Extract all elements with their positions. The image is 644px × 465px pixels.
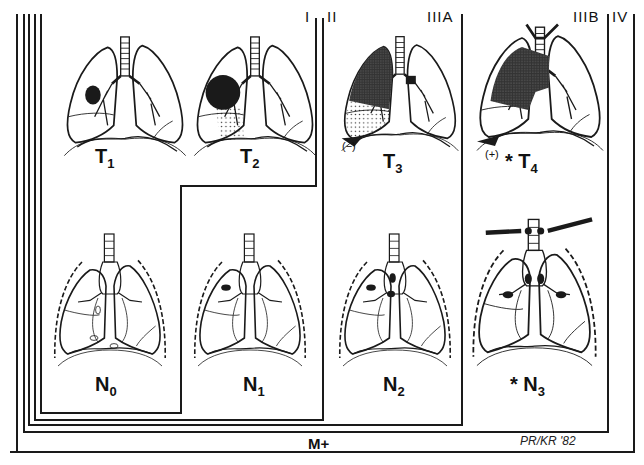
metastasis-label: M+ (308, 435, 329, 452)
panel-label-t4: * T4 (505, 150, 538, 176)
stage-label-iiia: IIIA (427, 8, 454, 25)
asterisk-marker: * (505, 150, 513, 172)
lung-diagram-t1 (50, 30, 200, 160)
note-t4-positive: (+) (485, 148, 499, 160)
panel-label-t1: T1 (95, 145, 114, 171)
lung-diagram-t3 (325, 30, 475, 155)
tumor-mass-icon (206, 75, 241, 110)
stage-iiib-left-line (23, 14, 25, 432)
lymph-node-icon (221, 284, 231, 290)
lung-diagram-t2 (180, 30, 330, 160)
stage-iiia-bottom-line (28, 424, 463, 426)
stage-label-i: I (305, 8, 310, 25)
stage-iiia-left-line (28, 14, 30, 425)
stage-iv-left-line (16, 14, 18, 452)
stage-iv-right-line (633, 14, 635, 453)
lung-diagram-n2 (325, 230, 465, 370)
stage-ii-bottom-line (34, 419, 324, 421)
note-t3-negative: (−) (342, 140, 356, 152)
stage-i-bottom-line (40, 412, 182, 414)
tumor-mass-icon (85, 85, 101, 104)
stage-iiib-bottom-line (23, 431, 609, 433)
panel-label-t3: T3 (383, 150, 402, 176)
panel-label-n0: N0 (95, 373, 117, 399)
stage-label-ii: II (327, 8, 337, 25)
panel-label-n1: N1 (243, 373, 265, 399)
panel-label-n3: * N3 (510, 373, 545, 399)
panel-label-n2: N2 (383, 373, 405, 399)
asterisk-marker: * (510, 373, 518, 395)
panel-label-t2: T2 (240, 145, 259, 171)
lung-diagram-n1 (180, 230, 320, 370)
artist-signature: PR/KR '82 (520, 434, 576, 448)
lung-diagram-n0 (40, 230, 180, 370)
stage-ii-left-line (34, 14, 36, 420)
stage-i-step-line (180, 185, 317, 187)
lung-diagram-n3 (462, 215, 607, 370)
lung-diagram-t4 (465, 20, 615, 155)
